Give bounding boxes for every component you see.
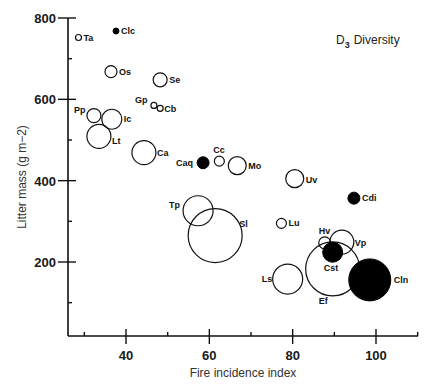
bubble-chart: 406080100 200400600800 Fire incidence in… bbox=[0, 0, 435, 388]
data-point-label: Ta bbox=[84, 33, 95, 43]
open-bubble-marker bbox=[214, 156, 224, 166]
data-point-label: Cc bbox=[213, 145, 225, 155]
open-bubble-marker bbox=[76, 35, 82, 41]
y-axis-title: Litter mass (g m−2) bbox=[15, 125, 29, 229]
data-point-label: Ic bbox=[124, 114, 132, 124]
annotation-text: Diversity bbox=[354, 33, 400, 47]
open-bubble-marker bbox=[188, 209, 242, 263]
open-bubble-marker bbox=[87, 124, 111, 148]
x-tick-label: 40 bbox=[119, 348, 133, 363]
data-point-label: Cb bbox=[164, 104, 176, 114]
filled-bubble-marker bbox=[113, 28, 119, 34]
filled-bubble-marker bbox=[323, 242, 343, 262]
x-tick-label: 80 bbox=[285, 348, 299, 363]
data-point-label: Mo bbox=[248, 161, 261, 171]
open-bubble-marker bbox=[157, 105, 163, 111]
data-point-sl: Sl bbox=[188, 209, 248, 263]
data-point-pp: Pp bbox=[74, 105, 101, 123]
open-bubble-marker bbox=[276, 218, 286, 228]
data-point-label: Tp bbox=[169, 200, 180, 210]
data-point-label: Ca bbox=[157, 148, 169, 158]
open-bubble-marker bbox=[273, 264, 303, 294]
diversity-annotation: D3Diversity bbox=[336, 33, 400, 50]
open-bubble-marker bbox=[228, 157, 246, 175]
filled-bubble-marker bbox=[197, 157, 209, 169]
data-point-mo: Mo bbox=[228, 157, 261, 175]
filled-bubble-marker bbox=[348, 192, 360, 204]
y-tick-label: 800 bbox=[34, 11, 56, 26]
data-point-uv: Uv bbox=[286, 170, 318, 188]
x-tick-label: 100 bbox=[365, 348, 387, 363]
open-bubble-marker bbox=[105, 66, 117, 78]
data-point-clc: Clc bbox=[113, 26, 135, 36]
annotation-main: D bbox=[336, 33, 345, 47]
data-point-cln: Cln bbox=[349, 259, 409, 301]
open-bubble-marker bbox=[132, 141, 156, 165]
open-bubble-marker bbox=[87, 109, 101, 123]
data-point-os: Os bbox=[105, 66, 131, 78]
annotation-subscript: 3 bbox=[345, 40, 350, 50]
data-point-cc: Cc bbox=[213, 145, 225, 166]
data-point-label: Caq bbox=[176, 158, 193, 168]
open-bubble-marker bbox=[286, 170, 304, 188]
data-point-label: Ls bbox=[262, 274, 273, 284]
data-point-label: Pp bbox=[74, 105, 86, 115]
data-point-label: Uv bbox=[306, 175, 318, 185]
x-axis-ticks: 406080100 bbox=[84, 329, 417, 363]
data-point-label: Se bbox=[169, 75, 180, 85]
filled-bubble-marker bbox=[349, 259, 391, 301]
y-axis-ticks: 200400600800 bbox=[34, 11, 76, 303]
data-points: TaOsSeGpCbPpIcLtCaCcMoUvTpSlLuHvVpEfLsCl… bbox=[74, 26, 408, 306]
open-bubble-marker bbox=[153, 73, 167, 87]
data-point-label: Vp bbox=[355, 238, 367, 248]
data-point-caq: Caq bbox=[176, 157, 209, 169]
open-bubble-marker bbox=[151, 102, 157, 108]
data-point-ca: Ca bbox=[132, 141, 169, 165]
data-point-cdi: Cdi bbox=[348, 192, 377, 204]
data-point-label: Clc bbox=[121, 26, 135, 36]
data-point-gp: Gp bbox=[135, 95, 157, 108]
x-tick-label: 60 bbox=[202, 348, 216, 363]
data-point-label: Os bbox=[119, 67, 131, 77]
data-point-se: Se bbox=[153, 73, 180, 87]
data-point-label: Gp bbox=[135, 95, 148, 105]
data-point-ta: Ta bbox=[76, 33, 95, 43]
data-point-cb: Cb bbox=[157, 104, 176, 114]
x-axis-title: Fire incidence index bbox=[190, 366, 297, 380]
data-point-label: Hv bbox=[319, 226, 331, 236]
y-tick-label: 600 bbox=[34, 92, 56, 107]
data-point-label: Cdi bbox=[362, 193, 377, 203]
data-point-label: Cln bbox=[394, 275, 409, 285]
data-point-label: Lu bbox=[288, 218, 299, 228]
y-tick-label: 200 bbox=[34, 255, 56, 270]
data-point-lu: Lu bbox=[276, 218, 299, 228]
data-point-label: Cst bbox=[324, 263, 339, 273]
data-point-label: Sl bbox=[239, 219, 248, 229]
y-tick-label: 400 bbox=[34, 174, 56, 189]
data-point-ls: Ls bbox=[262, 264, 303, 294]
axes: 406080100 200400600800 bbox=[34, 11, 418, 363]
data-point-label: Ef bbox=[319, 296, 329, 306]
data-point-label: Lt bbox=[112, 136, 121, 146]
